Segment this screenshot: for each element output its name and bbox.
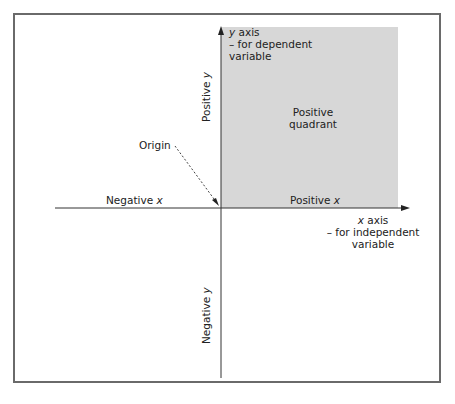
origin-arrow-icon <box>212 198 219 206</box>
negative-y-var: y <box>200 287 212 293</box>
positive-x-text: Positive <box>290 194 334 206</box>
axes-diagram <box>0 0 455 404</box>
quadrant-line-1: Positive <box>283 106 343 118</box>
y-axis-desc-2: variable <box>229 50 312 62</box>
negative-y-text: Negative <box>200 294 212 344</box>
origin-pointer-line <box>175 146 217 203</box>
negative-x-text: Negative <box>106 194 156 206</box>
x-axis-label: x axis – for independent variable <box>318 214 428 250</box>
x-axis-desc: – for independent <box>318 226 428 238</box>
negative-x-var: x <box>156 194 162 206</box>
positive-x-label: Positive x <box>290 194 340 206</box>
negative-y-label: Negative y <box>200 287 212 344</box>
negative-x-label: Negative x <box>106 194 163 206</box>
quadrant-line-2: quadrant <box>283 118 343 130</box>
origin-label: Origin <box>139 139 171 151</box>
positive-quadrant-label: Positive quadrant <box>283 106 343 130</box>
y-axis-word: axis <box>235 26 259 38</box>
x-axis-arrow-icon <box>401 205 410 211</box>
positive-y-text: Positive <box>200 78 212 122</box>
positive-y-label: Positive y <box>200 72 212 122</box>
y-axis-desc: – for dependent <box>229 38 312 50</box>
positive-x-var: x <box>334 194 340 206</box>
positive-y-var: y <box>200 72 212 78</box>
x-axis-word: axis <box>364 214 388 226</box>
x-axis-desc-2: variable <box>318 238 428 250</box>
y-axis-label: y axis – for dependent variable <box>229 26 312 62</box>
